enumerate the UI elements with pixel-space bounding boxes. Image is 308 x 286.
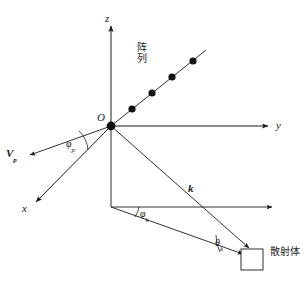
angle-arc-phi-p <box>79 131 88 150</box>
phi-p-subscript: p <box>72 146 76 154</box>
phi-k-subscript: k <box>146 216 149 224</box>
diagram-canvas <box>0 0 308 286</box>
array-element-dot <box>168 73 175 80</box>
velocity-vector-label: Vp <box>6 148 17 162</box>
origin-dot <box>107 122 116 131</box>
wave-vector-symbol: k <box>188 182 194 194</box>
angle-arc-phi-k <box>135 207 139 217</box>
x-axis-label: x <box>22 203 27 214</box>
y-axis-label: y <box>276 120 281 131</box>
origin-label: O <box>97 112 105 123</box>
wave-vector-line <box>111 126 249 248</box>
angle-label-phi-p: φp <box>66 139 75 152</box>
z-axis-label: z <box>105 13 109 24</box>
geometry-diagram: z y x O Vp k φp φk θk 阵列 散射体 <box>0 0 308 286</box>
angle-label-theta-k: θk <box>215 238 223 251</box>
array-element-dot <box>148 89 155 96</box>
array-annotation-label: 阵列 <box>135 42 146 64</box>
velocity-vector-subscript: p <box>13 156 17 164</box>
array-element-dot <box>189 57 196 64</box>
scatterer-annotation-label: 散射体 <box>270 247 300 257</box>
theta-k-subscript: k <box>220 245 223 253</box>
phi-p-symbol: φ <box>66 138 72 149</box>
phi-k-symbol: φ <box>140 208 146 219</box>
wave-vector-label: k <box>188 183 194 194</box>
angle-label-phi-k: φk <box>140 209 149 222</box>
scatterer-box <box>241 249 263 270</box>
ground-projection-line <box>111 207 243 254</box>
x-axis <box>36 126 111 202</box>
array-element-dot <box>128 105 135 112</box>
